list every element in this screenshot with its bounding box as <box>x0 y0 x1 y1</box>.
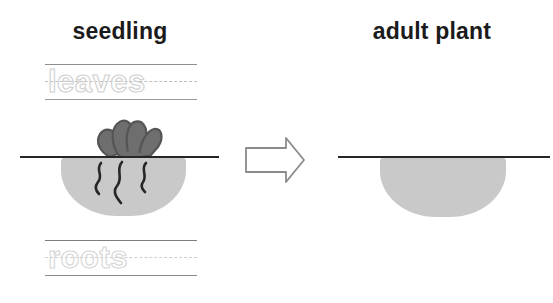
transformation-arrow-icon <box>246 138 304 182</box>
arrow-layer <box>0 0 553 303</box>
worksheet-canvas: seedling adult plant leaves roots <box>0 0 553 303</box>
